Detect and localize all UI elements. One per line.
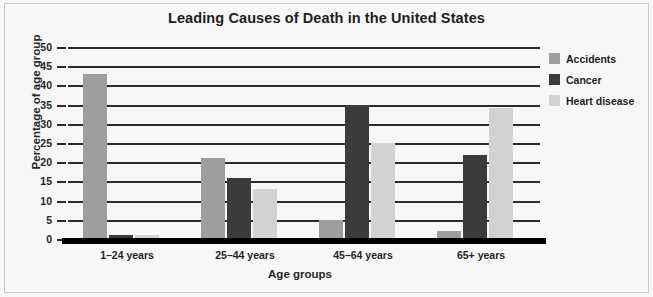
legend-label: Cancer: [566, 74, 602, 86]
y-axis-tick-label: 45: [26, 61, 52, 71]
bar: [201, 158, 225, 239]
legend-swatch-icon: [549, 95, 560, 106]
bar: [345, 105, 369, 239]
y-axis-tick: [57, 124, 66, 126]
gridline: [68, 105, 540, 107]
gridline: [68, 66, 540, 68]
gridline: [68, 143, 540, 145]
bar: [227, 178, 251, 239]
y-axis-tick: [57, 143, 66, 145]
x-axis-tick-label: 65+ years: [422, 249, 540, 261]
y-axis-tick-label: 25: [26, 138, 52, 148]
y-axis-tick: [57, 181, 66, 183]
y-axis-tick: [57, 220, 66, 222]
y-axis-tick: [57, 105, 66, 107]
chart-figure: Leading Causes of Death in the United St…: [0, 0, 653, 297]
y-axis-tick-label: 15: [26, 176, 52, 186]
x-axis-tick-label: 45–64 years: [304, 249, 422, 261]
y-axis-tick: [57, 85, 66, 87]
y-axis-tick-label: 40: [26, 80, 52, 90]
gridline: [68, 47, 540, 49]
plot-area: [68, 47, 540, 239]
bar: [463, 155, 487, 239]
y-axis-tick-label: 10: [26, 196, 52, 206]
y-axis-tick: [57, 162, 66, 164]
bar: [371, 143, 395, 239]
chart-title: Leading Causes of Death in the United St…: [0, 10, 653, 26]
bar: [319, 220, 343, 239]
bar: [253, 189, 277, 239]
legend-item: Cancer: [549, 69, 634, 90]
legend-label: Heart disease: [566, 95, 634, 107]
y-axis-tick-label: 0: [26, 234, 52, 244]
legend-item: Heart disease: [549, 90, 634, 111]
y-axis-tick-label: 30: [26, 119, 52, 129]
chart-legend: AccidentsCancerHeart disease: [549, 48, 634, 111]
legend-swatch-icon: [549, 74, 560, 85]
y-axis-tick: [57, 66, 66, 68]
gridline: [68, 124, 540, 126]
y-axis-tick-label: 5: [26, 215, 52, 225]
legend-item: Accidents: [549, 48, 634, 69]
x-axis-baseline: [62, 238, 546, 244]
legend-label: Accidents: [566, 53, 616, 65]
y-axis-tick: [57, 47, 66, 49]
y-axis-tick: [57, 201, 66, 203]
x-axis-label: Age groups: [0, 268, 600, 280]
y-axis-tick-label: 50: [26, 42, 52, 52]
legend-swatch-icon: [549, 53, 560, 64]
y-axis-tick-label: 20: [26, 157, 52, 167]
bar: [489, 108, 513, 239]
gridline: [68, 85, 540, 87]
bar: [83, 74, 107, 239]
x-axis-tick-label: 1–24 years: [68, 249, 186, 261]
y-axis-tick-label: 35: [26, 100, 52, 110]
x-axis-tick-label: 25–44 years: [186, 249, 304, 261]
